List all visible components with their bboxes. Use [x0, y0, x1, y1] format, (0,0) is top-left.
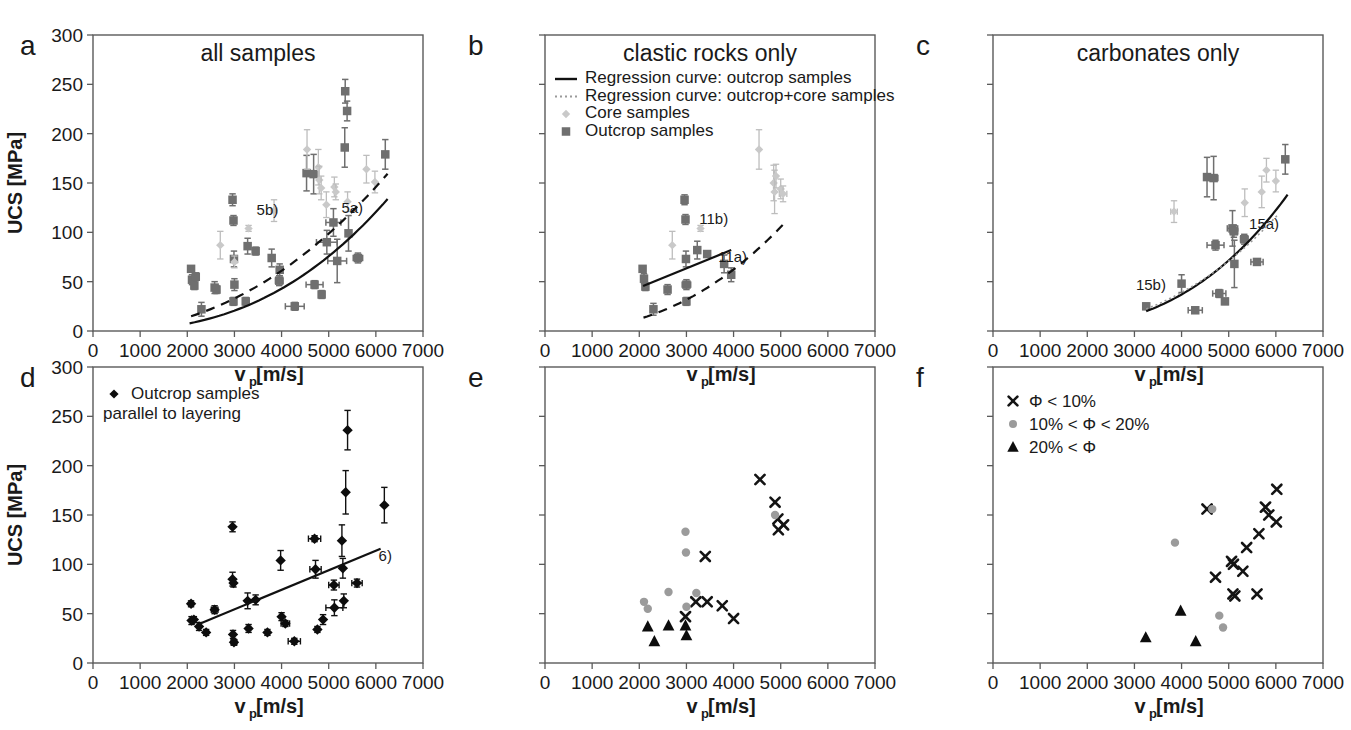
regression-curve-outcrop-core — [644, 222, 786, 318]
svg-text:[m/s]: [m/s] — [1156, 695, 1204, 717]
y-tick-label: 150 — [51, 173, 83, 194]
data-layer — [186, 410, 390, 647]
legend-line-2: parallel to layering — [103, 404, 241, 423]
x-axis-title: vp [m/s] — [1134, 695, 1203, 721]
y-tick-label: 150 — [51, 505, 83, 526]
x-tick-label: 6000 — [355, 672, 397, 693]
svg-text:[m/s]: [m/s] — [256, 695, 304, 717]
regression-label: 6) — [379, 547, 392, 564]
x-tick-label: 3000 — [213, 672, 255, 693]
y-tick-label: 300 — [51, 25, 83, 46]
y-tick-label: 0 — [72, 653, 83, 674]
x-tick-label: 2000 — [618, 672, 660, 693]
y-tick-label: 50 — [62, 272, 83, 293]
series-triangle — [642, 619, 692, 646]
regression-label: 5a) — [341, 199, 363, 216]
y-axis-title: UCS [MPa] — [4, 132, 26, 234]
x-tick-label: 4000 — [1160, 672, 1202, 693]
regression-layer: 6) — [199, 547, 392, 624]
x-tick-label: 4000 — [260, 672, 302, 693]
x-tick-label: 6000 — [807, 672, 849, 693]
x-tick-label: 4000 — [712, 672, 754, 693]
series-cross — [681, 475, 788, 623]
legend-porosity: Φ < 10%10% < Φ < 20%20% < Φ — [1007, 392, 1149, 457]
legend-diamond-marker-icon — [109, 389, 118, 398]
y-tick-label: 0 — [72, 321, 83, 342]
data-layer — [1140, 485, 1282, 647]
panel-b: 01000200030004000500060007000vp [m/s]bcl… — [452, 23, 902, 388]
panel-title: all samples — [200, 40, 315, 66]
panel-letter: f — [916, 362, 924, 393]
regression-line-outcrop — [199, 549, 381, 624]
panel-letter: e — [468, 362, 484, 393]
panel-letter: b — [468, 30, 484, 61]
series-cross — [1202, 485, 1281, 601]
legend-circle-marker-icon — [1009, 420, 1017, 428]
panel-a: 0501001502002503000100020003000400050006… — [0, 23, 450, 388]
x-tick-label: 0 — [540, 672, 551, 693]
x-tick-label: 7000 — [854, 672, 896, 693]
legend-outcrop-marker-icon — [562, 127, 571, 136]
legend-line-1: Outcrop samples — [131, 384, 260, 403]
svg-text:v: v — [1134, 695, 1146, 717]
x-tick-label: 5000 — [1208, 672, 1250, 693]
y-tick-label: 250 — [51, 406, 83, 427]
legend-item-label: 10% < Φ < 20% — [1029, 415, 1149, 434]
x-tick-label: 2000 — [166, 672, 208, 693]
legend-item-label: Regression curve: outcrop samples — [585, 68, 851, 87]
panel-letter: c — [916, 30, 930, 61]
y-tick-label: 100 — [51, 222, 83, 243]
svg-text:v: v — [234, 695, 246, 717]
x-tick-label: 1000 — [1019, 672, 1061, 693]
regression-label: 15a) — [1249, 215, 1279, 232]
regression-layer: 5a)5b) — [190, 174, 388, 324]
panel-f: 01000200030004000500060007000vp [m/s]fΦ … — [900, 355, 1350, 720]
legend-item-label: Φ < 10% — [1029, 392, 1096, 411]
regression-label: 11b) — [699, 210, 728, 227]
x-tick-label: 1000 — [571, 672, 613, 693]
svg-text:[m/s]: [m/s] — [708, 695, 756, 717]
legend-item-label: Regression curve: outcrop+core samples — [585, 86, 894, 105]
panel-c: 01000200030004000500060007000vp [m/s]cca… — [900, 23, 1350, 388]
panel-letter: a — [20, 30, 36, 61]
panel-d: 0501001502002503000100020003000400050006… — [0, 355, 450, 720]
x-tick-label: 3000 — [1113, 672, 1155, 693]
x-tick-label: 0 — [988, 672, 999, 693]
y-tick-label: 300 — [51, 357, 83, 378]
data-layer — [640, 475, 788, 646]
plot-frame — [545, 367, 875, 663]
x-tick-label: 6000 — [1255, 672, 1297, 693]
legend-core-marker-icon — [562, 110, 570, 118]
x-tick-label: 7000 — [402, 672, 444, 693]
regression-layer: 15a)15b) — [1136, 195, 1288, 312]
x-tick-label: 1000 — [119, 672, 161, 693]
x-tick-label: 3000 — [665, 672, 707, 693]
legend-item-label: 20% < Φ — [1029, 438, 1096, 457]
regression-layer: 11a)11b) — [643, 210, 785, 317]
legend-item-label: Core samples — [585, 103, 690, 122]
y-tick-label: 250 — [51, 74, 83, 95]
y-tick-label: 200 — [51, 456, 83, 477]
plot-frame — [993, 367, 1323, 663]
x-tick-label: 5000 — [308, 672, 350, 693]
series-diamond-black — [186, 410, 390, 647]
figure-root: 0501001502002503000100020003000400050006… — [0, 0, 1351, 730]
y-tick-label: 200 — [51, 124, 83, 145]
panel-title: carbonates only — [1077, 40, 1240, 66]
legend-clastic: Regression curve: outcrop samplesRegress… — [555, 68, 894, 140]
panel-title: clastic rocks only — [623, 40, 797, 66]
panel-e: 01000200030004000500060007000vp [m/s]e — [452, 355, 902, 720]
x-tick-label: 7000 — [1302, 672, 1344, 693]
y-tick-label: 100 — [51, 554, 83, 575]
y-tick-label: 50 — [62, 604, 83, 625]
panel-letter: d — [20, 362, 36, 393]
x-tick-label: 0 — [88, 672, 99, 693]
regression-label: 15b) — [1136, 276, 1166, 293]
series-triangle — [1140, 605, 1202, 647]
x-axis-title: vp [m/s] — [234, 695, 303, 721]
svg-text:v: v — [686, 695, 698, 717]
legend-triangle-marker-icon — [1007, 441, 1018, 452]
legend-item-label: Outcrop samples — [585, 121, 714, 140]
x-tick-label: 2000 — [1066, 672, 1108, 693]
regression-label: 5b) — [257, 201, 279, 218]
